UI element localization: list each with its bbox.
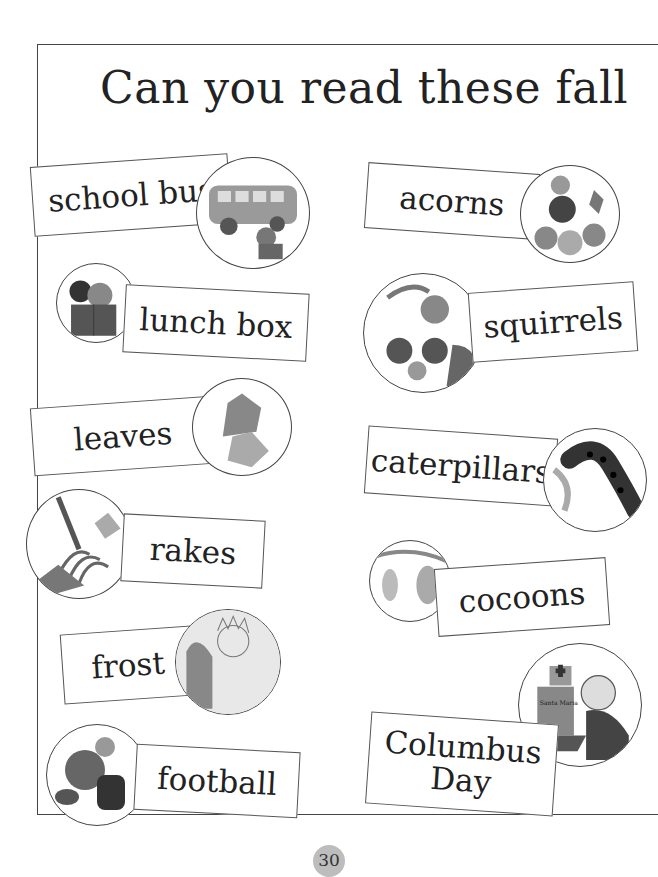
word-label: lunch box: [139, 303, 294, 344]
rake-illustration: [26, 489, 132, 599]
frost-illustration: [175, 609, 281, 715]
word-card-cocoons: cocoons: [434, 557, 610, 637]
word-label: leaves: [73, 416, 174, 455]
ship-label: Santa Maria: [540, 699, 578, 706]
word-label: acorns: [398, 181, 505, 221]
football-illustration: [46, 724, 148, 826]
acorns-illustration: [520, 165, 620, 263]
leaves-illustration: [192, 378, 292, 476]
word-card-caterpillars: caterpillars: [364, 425, 558, 506]
word-card-football: football: [133, 744, 300, 818]
word-card-leaves: leaves: [30, 396, 216, 477]
word-card-columbus-day: Columbus Day: [365, 712, 559, 817]
word-label-line2: Day: [429, 762, 492, 799]
page-number-badge: 30: [313, 845, 345, 877]
page-frame-top: [37, 44, 658, 45]
caterpillar-illustration: [543, 428, 647, 532]
word-card-squirrels: squirrels: [468, 281, 638, 362]
word-label: rakes: [149, 532, 237, 569]
word-label: squirrels: [482, 301, 623, 343]
word-card-rakes: rakes: [120, 513, 265, 588]
word-label: caterpillars: [370, 443, 552, 488]
page-frame-bottom: [37, 814, 658, 815]
word-label: cocoons: [458, 576, 587, 617]
word-card-lunch-box: lunch box: [122, 284, 309, 362]
word-label: football: [157, 762, 278, 801]
school-bus-illustration: [196, 157, 310, 269]
word-label: school bus: [47, 173, 215, 217]
word-label: frost: [90, 646, 165, 684]
word-card-acorns: acorns: [364, 162, 540, 240]
squirrels-illustration: [363, 273, 483, 393]
page-title: Can you read these fall: [100, 62, 628, 113]
